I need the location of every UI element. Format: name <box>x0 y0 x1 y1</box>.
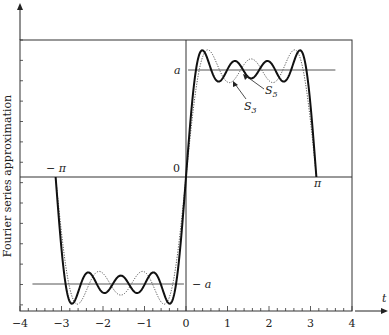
neg-a-label: − a <box>192 278 211 291</box>
x-tick-label: −1 <box>136 317 152 330</box>
s5-pointer <box>246 76 264 89</box>
x-tick-label: −2 <box>95 317 111 330</box>
pi-label: π <box>313 177 322 190</box>
x-tick-label: −3 <box>53 317 69 330</box>
x-tick-label: 3 <box>307 317 314 330</box>
a-label: a <box>174 64 181 77</box>
origin-zero-label: 0 <box>173 162 180 175</box>
y-axis-arrow-head <box>17 3 23 10</box>
fourier-chart: t Fourier series approximation −4−3−2−10… <box>0 0 389 335</box>
x-axis-arrow-head <box>381 308 388 314</box>
s5-label: S5 <box>265 84 278 99</box>
neg-pi-label: − π <box>46 162 67 175</box>
x-axis-label: t <box>382 292 387 305</box>
x-tick-label: 4 <box>349 317 356 330</box>
x-tick-label: 1 <box>224 317 231 330</box>
y-axis-label: Fourier series approximation <box>1 95 14 257</box>
s3-label: S3 <box>244 100 257 115</box>
s3-pointer <box>235 84 246 99</box>
s3-pointer-head <box>233 81 238 87</box>
x-tick-label: 0 <box>183 317 190 330</box>
x-tick-label: −4 <box>12 317 28 330</box>
x-tick-label: 2 <box>266 317 273 330</box>
